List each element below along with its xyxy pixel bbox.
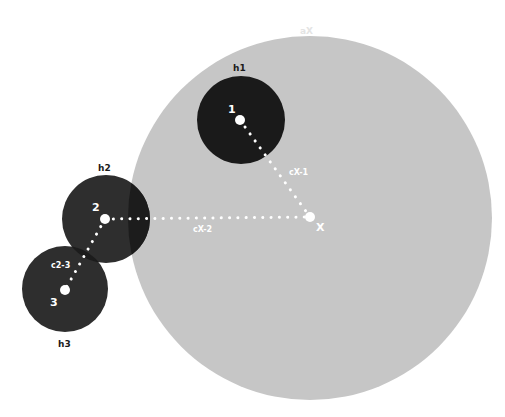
diagram-canvas: aX h1 h2 h3 1 2 3 X cX-1 cX-2 c2-3 <box>0 0 505 417</box>
node-3 <box>60 285 70 295</box>
label-cx-2: cX-2 <box>193 225 212 234</box>
node-label-1: 1 <box>228 103 236 116</box>
node-1 <box>235 115 245 125</box>
node-label-2: 2 <box>92 201 100 214</box>
label-h3: h3 <box>58 339 71 349</box>
label-ax: aX <box>300 26 313 36</box>
label-h1: h1 <box>233 63 246 73</box>
node-label-3: 3 <box>50 296 58 309</box>
label-cx-1: cX-1 <box>289 168 309 177</box>
node-x <box>305 212 315 222</box>
node-label-x: X <box>316 221 325 234</box>
node-2 <box>100 214 110 224</box>
label-h2: h2 <box>98 163 111 173</box>
label-c2-3: c2-3 <box>51 261 70 270</box>
